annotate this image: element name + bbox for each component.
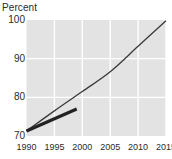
- x-axis-tick-label: 2005: [95, 142, 125, 152]
- chart-container: Percent 100908070 1990199520002005201020…: [0, 0, 172, 159]
- x-axis-tick-label: 1995: [39, 142, 69, 152]
- plot-background: [27, 20, 167, 136]
- x-axis-tick-label: 1990: [12, 142, 42, 152]
- y-axis-tick-label: 70: [1, 131, 25, 141]
- y-axis-tick-label: 100: [1, 15, 25, 25]
- chart-plot: [0, 0, 172, 159]
- x-axis-tick-label: 2000: [67, 142, 97, 152]
- x-axis-tick-label: 2010: [123, 142, 153, 152]
- y-axis-tick-label: 90: [1, 54, 25, 64]
- y-axis-tick-label: 80: [1, 92, 25, 102]
- x-axis-tick-label: 2015: [151, 142, 172, 152]
